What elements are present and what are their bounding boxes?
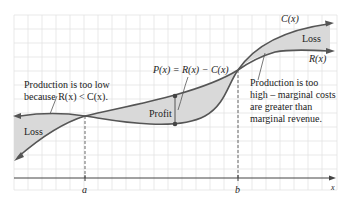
x-axis <box>14 175 336 181</box>
too-high-line2: high – marginal costs <box>250 89 336 100</box>
right-loss-label: Loss <box>302 33 321 44</box>
too-low-line1: Production is too low <box>24 79 111 90</box>
too-high-line3: are greater than <box>250 101 312 112</box>
left-loss-label: Loss <box>24 126 43 137</box>
tick-b-label: b <box>235 184 240 195</box>
revenue-point <box>173 94 178 99</box>
too-low-line2: because R(x) < C(x). <box>24 91 108 103</box>
profit-label: Profit <box>149 108 172 119</box>
x-axis-label: x <box>330 183 335 192</box>
cost-point <box>173 122 178 127</box>
revenue-curve-label: R(x) <box>308 53 327 65</box>
tick-a-label: a <box>82 184 87 195</box>
too-high-line1: Production is too <box>250 77 318 88</box>
cost-curve-label: C(x) <box>281 13 299 25</box>
too-high-line4: marginal revenue. <box>250 113 322 124</box>
profit-formula-label: P(x) = R(x) − C(x) <box>152 64 229 76</box>
revenue-arrow-right-icon <box>326 48 335 54</box>
profit-diagram: C(x) R(x) Loss Loss Profit P(x) = R(x) −… <box>0 0 348 202</box>
